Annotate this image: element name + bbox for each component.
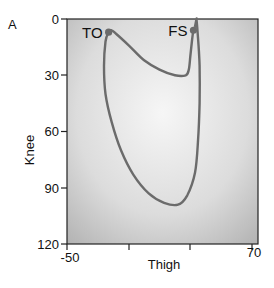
- fs-marker: [190, 27, 197, 34]
- y-tick-label: 60: [45, 124, 59, 139]
- y-axis: 0 30 60 90 120 Knee: [22, 12, 67, 252]
- gait-cyclogram-chart: A 0 30 60 90 120 Knee -50 70 Thigh TOFS: [0, 0, 274, 288]
- panel-label: A: [8, 17, 17, 32]
- x-axis: -50 70 Thigh: [61, 244, 262, 272]
- y-tick-label: 30: [45, 68, 59, 83]
- to-marker: [105, 29, 112, 36]
- x-axis-title: Thigh: [148, 257, 181, 272]
- plot-area: [67, 19, 258, 244]
- x-tick-label: 70: [247, 245, 261, 260]
- y-tick-label: 0: [52, 12, 59, 27]
- y-tick-label: 90: [45, 181, 59, 196]
- x-tick-label: -50: [61, 250, 80, 265]
- to-label: TO: [82, 24, 103, 41]
- y-axis-title: Knee: [22, 135, 37, 165]
- fs-label: FS: [168, 22, 187, 39]
- y-tick-label: 120: [37, 237, 59, 252]
